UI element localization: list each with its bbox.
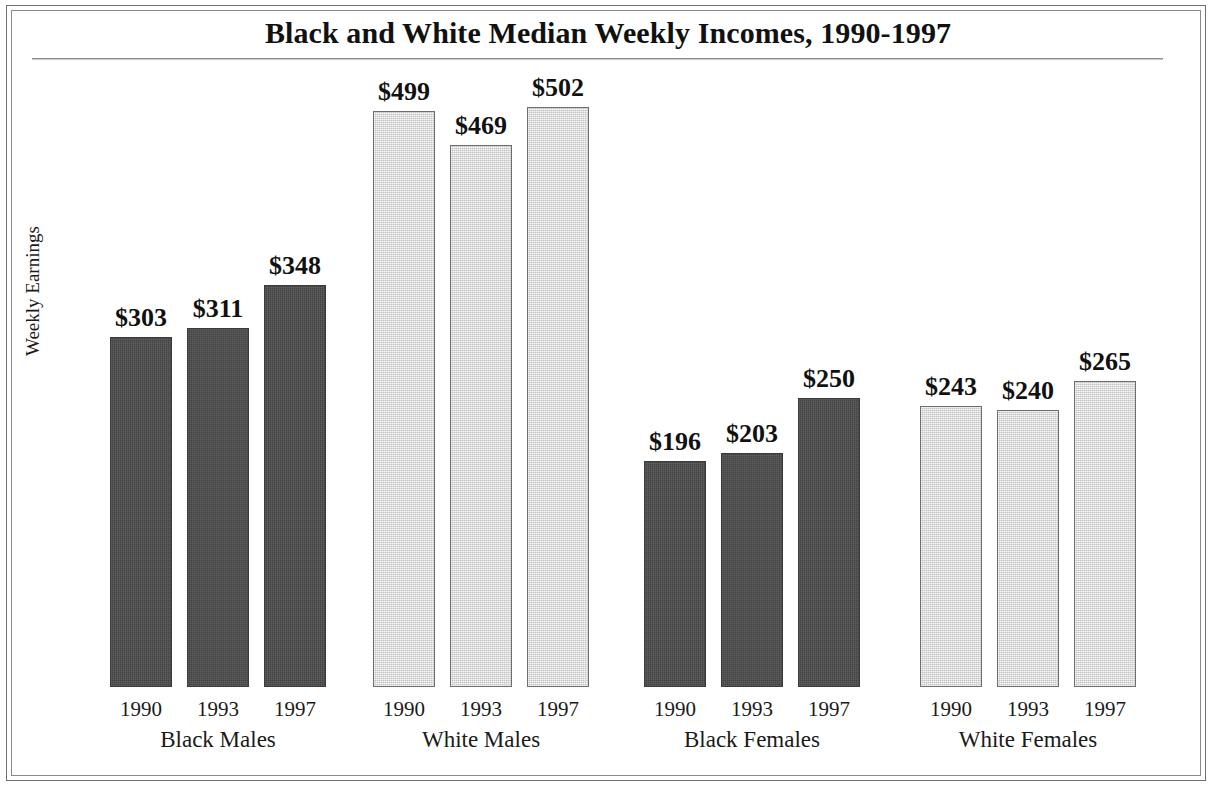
- x-tick-label-1997: 1997: [513, 697, 603, 722]
- bar-white-females-1990[interactable]: [920, 406, 982, 687]
- x-tick-label-1997: 1997: [1060, 697, 1150, 722]
- bar-value-label: $250: [782, 364, 876, 394]
- bar-column: $311: [187, 328, 249, 687]
- group-label-black-females: Black Females: [624, 727, 880, 753]
- bar-white-males-1993[interactable]: [450, 145, 512, 687]
- bar-black-males-1997[interactable]: [264, 285, 326, 687]
- bar-value-label: $203: [705, 419, 799, 449]
- bar-value-label: $348: [248, 251, 342, 281]
- bar-column: $348: [264, 285, 326, 687]
- x-tick-label-1997: 1997: [250, 697, 340, 722]
- bar-value-label: $469: [434, 111, 528, 141]
- group-label-white-males: White Males: [353, 727, 609, 753]
- bar-column: $240: [997, 410, 1059, 687]
- bar-column: $203: [721, 453, 783, 687]
- bar-column: $196: [644, 461, 706, 687]
- chart-plot-area: $3031990$3111993$3481997Black Males$4991…: [0, 0, 1216, 793]
- bar-white-females-1997[interactable]: [1074, 381, 1136, 687]
- bar-column: $499: [373, 111, 435, 687]
- bar-column: $469: [450, 145, 512, 687]
- bar-column: $502: [527, 107, 589, 687]
- bar-black-females-1990[interactable]: [644, 461, 706, 687]
- bar-white-females-1993[interactable]: [997, 410, 1059, 687]
- bar-column: $265: [1074, 381, 1136, 687]
- bar-white-males-1990[interactable]: [373, 111, 435, 687]
- x-tick-label-1997: 1997: [784, 697, 874, 722]
- bar-black-males-1990[interactable]: [110, 337, 172, 687]
- group-label-black-males: Black Males: [90, 727, 346, 753]
- bar-white-males-1997[interactable]: [527, 107, 589, 687]
- bar-value-label: $502: [511, 73, 605, 103]
- bar-black-females-1993[interactable]: [721, 453, 783, 687]
- bar-value-label: $265: [1058, 347, 1152, 377]
- bar-column: $243: [920, 406, 982, 687]
- bar-value-label: $240: [981, 376, 1075, 406]
- bar-black-females-1997[interactable]: [798, 398, 860, 687]
- bar-column: $303: [110, 337, 172, 687]
- bar-column: $250: [798, 398, 860, 687]
- bar-value-label: $499: [357, 77, 451, 107]
- bar-black-males-1993[interactable]: [187, 328, 249, 687]
- group-label-white-females: White Females: [900, 727, 1156, 753]
- bar-value-label: $311: [171, 294, 265, 324]
